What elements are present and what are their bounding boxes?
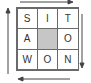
grid-cell: O <box>37 49 58 71</box>
grid-cell: T <box>57 8 78 30</box>
arrow-down-icon <box>80 14 84 68</box>
grid-cell: S <box>17 8 38 30</box>
arrow-right-icon <box>20 0 73 4</box>
grid-cell: O <box>57 28 78 50</box>
grid-cell: A <box>17 28 38 50</box>
grid-cell-shaded <box>37 28 58 50</box>
arrow-up-icon <box>6 8 10 74</box>
letter-grid: S I T A O W O N <box>16 7 79 71</box>
grid-cell: I <box>37 8 58 30</box>
grid-cell: N <box>57 49 78 71</box>
grid-cell: W <box>17 49 38 71</box>
arrow-left-icon <box>18 77 70 81</box>
